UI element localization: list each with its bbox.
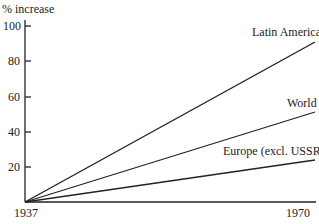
y-tick-label-20: 20 xyxy=(8,161,20,173)
y-tick-label-100: 100 xyxy=(3,20,21,32)
y-tick-label-40: 40 xyxy=(8,126,20,138)
y-tick-label-60: 60 xyxy=(8,91,20,103)
x-tick-label-start: 1937 xyxy=(14,207,38,219)
series-label-latin-america: Latin America xyxy=(252,26,319,38)
line-latin-america xyxy=(25,42,315,202)
x-tick-label-end: 1970 xyxy=(286,207,310,219)
y-tick-label-80: 80 xyxy=(8,55,20,67)
line-europe xyxy=(25,160,315,202)
series-label-europe: Europe (excl. USSR) xyxy=(223,145,319,157)
y-axis-label: % increase xyxy=(2,3,54,15)
series-label-world: World xyxy=(287,97,317,109)
